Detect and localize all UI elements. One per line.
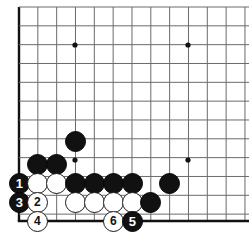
stone-white <box>84 192 105 213</box>
stone-white-move-2: 2 <box>27 192 48 213</box>
star-point <box>185 157 190 162</box>
move-number-label: 6 <box>110 215 116 227</box>
stone-black <box>65 131 86 152</box>
star-point <box>72 157 77 162</box>
stone-black <box>140 192 161 213</box>
stone-white-move-4: 4 <box>27 211 48 232</box>
stone-white <box>65 192 86 213</box>
star-point <box>72 42 77 47</box>
stone-black <box>46 154 67 175</box>
move-number-label: 1 <box>16 176 23 189</box>
move-number-label: 2 <box>34 196 40 208</box>
stone-white <box>27 173 48 194</box>
stone-black <box>159 173 180 194</box>
stone-black <box>27 154 48 175</box>
stone-white <box>46 173 67 194</box>
move-number-label: 3 <box>16 195 23 208</box>
stone-black <box>122 173 143 194</box>
stone-white-move-6: 6 <box>103 211 124 232</box>
star-point <box>185 42 190 47</box>
stone-black <box>65 173 86 194</box>
go-diagram: 132465 <box>0 0 249 241</box>
move-number-label: 4 <box>34 215 40 227</box>
stone-black-move-5: 5 <box>122 211 143 232</box>
stone-black <box>103 173 124 194</box>
stone-white <box>103 192 124 213</box>
move-number-label: 5 <box>129 214 136 227</box>
stone-black <box>84 173 105 194</box>
